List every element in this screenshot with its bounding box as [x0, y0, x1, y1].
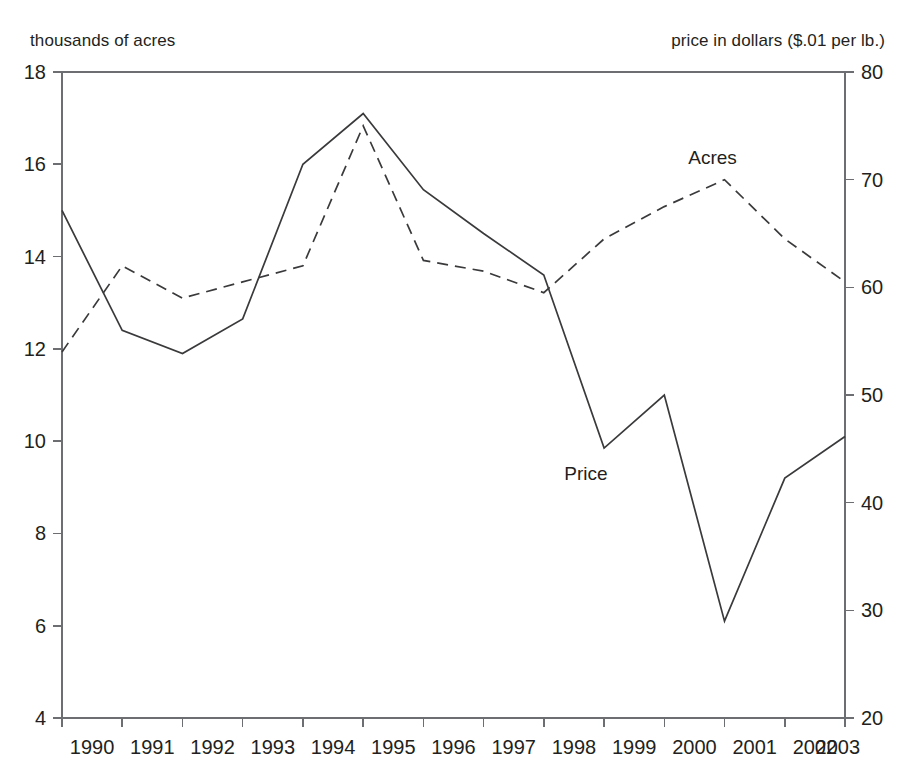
series-label-price: Price — [564, 463, 607, 484]
left-tick-label: 10 — [24, 430, 46, 452]
chart-figure: thousands of acres price in dollars ($.0… — [0, 0, 911, 779]
x-tick-label: 1991 — [130, 736, 175, 758]
right-tick-label: 60 — [861, 276, 883, 298]
right-tick-label: 20 — [861, 707, 883, 729]
left-tick-label: 6 — [35, 615, 46, 637]
right-tick-label: 30 — [861, 599, 883, 621]
right-tick-label: 50 — [861, 384, 883, 406]
x-tick-label: 1998 — [552, 736, 597, 758]
series-group — [62, 114, 845, 622]
x-tick-label: 1994 — [311, 736, 356, 758]
x-tick-label: 1995 — [371, 736, 416, 758]
dual-axis-line-chart: 4681012141618 20304050607080 19901991199… — [0, 0, 911, 779]
x-tick-label: 2001 — [732, 736, 777, 758]
right-axis-caption: price in dollars ($.01 per lb.) — [671, 31, 885, 51]
x-tick-label: 1990 — [70, 736, 115, 758]
left-tick-label: 8 — [35, 522, 46, 544]
x-tick-label: 1992 — [190, 736, 235, 758]
series-line-price — [62, 114, 845, 622]
left-tick-label: 4 — [35, 707, 46, 729]
x-tick-label: 2000 — [672, 736, 717, 758]
x-tick-label: 1996 — [431, 736, 476, 758]
left-tick-label: 16 — [24, 153, 46, 175]
left-tick-label: 12 — [24, 338, 46, 360]
x-tick-label: 1997 — [491, 736, 536, 758]
right-tick-label: 40 — [861, 492, 883, 514]
series-annotation-labels: PriceAcres — [564, 147, 736, 485]
left-tick-label: 14 — [24, 246, 46, 268]
right-axis-tick-labels: 20304050607080 — [861, 61, 883, 729]
right-tick-label: 80 — [861, 61, 883, 83]
left-axis-caption: thousands of acres — [30, 31, 175, 51]
x-tick-label: 1993 — [251, 736, 296, 758]
x-axis-tick-labels: 1990199119921993199419951996199719981999… — [70, 736, 860, 758]
x-tick-label: 1999 — [612, 736, 657, 758]
right-tick-label: 70 — [861, 169, 883, 191]
left-tick-label: 18 — [24, 61, 46, 83]
left-axis-tick-labels: 4681012141618 — [24, 61, 46, 729]
series-label-acres: Acres — [688, 147, 737, 168]
ticks-group — [53, 72, 854, 727]
x-tick-label: 2003 — [816, 736, 861, 758]
axes-group — [62, 72, 845, 718]
